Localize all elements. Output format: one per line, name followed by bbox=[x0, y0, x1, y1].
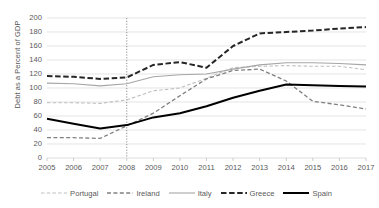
legend-item-ireland[interactable]: Ireland bbox=[107, 189, 159, 198]
series-line-greece bbox=[47, 27, 366, 79]
legend-item-spain[interactable]: Spain bbox=[283, 189, 331, 198]
x-axis-tick-2012: 2012 bbox=[219, 164, 247, 172]
y-axis-tick-20: 20 bbox=[20, 140, 42, 148]
line-swatch-dashed-light bbox=[41, 189, 67, 197]
x-axis-tick-2006: 2006 bbox=[60, 164, 88, 172]
chart-legend: PortugalIrelandItalyGreeceSpain bbox=[0, 186, 373, 200]
x-axis-tick-2008: 2008 bbox=[113, 164, 141, 172]
x-axis-tick-2013: 2013 bbox=[246, 164, 274, 172]
line-swatch-dashed-gray bbox=[107, 189, 133, 197]
x-axis-tick-2005: 2005 bbox=[33, 164, 61, 172]
y-axis-tick-80: 80 bbox=[20, 98, 42, 106]
y-axis-tick-120: 120 bbox=[20, 70, 42, 78]
y-axis-tick-100: 100 bbox=[20, 84, 42, 92]
legend-label-portugal: Portugal bbox=[70, 189, 98, 198]
y-axis-tick-180: 180 bbox=[20, 28, 42, 36]
y-axis-tick-0: 0 bbox=[20, 154, 42, 162]
legend-label-spain: Spain bbox=[312, 189, 331, 198]
legend-label-ireland: Ireland bbox=[136, 189, 159, 198]
line-swatch-solid-gray bbox=[169, 189, 195, 197]
y-axis-tick-60: 60 bbox=[20, 112, 42, 120]
x-axis-tick-2011: 2011 bbox=[193, 164, 221, 172]
legend-item-greece[interactable]: Greece bbox=[221, 189, 275, 198]
x-axis-tick-2015: 2015 bbox=[299, 164, 327, 172]
y-axis-tick-160: 160 bbox=[20, 42, 42, 50]
x-axis-tick-2014: 2014 bbox=[272, 164, 300, 172]
legend-item-portugal[interactable]: Portugal bbox=[41, 189, 98, 198]
x-axis-tick-2007: 2007 bbox=[86, 164, 114, 172]
series-line-spain bbox=[47, 85, 366, 129]
x-axis-tick-2016: 2016 bbox=[325, 164, 353, 172]
y-axis-tick-200: 200 bbox=[20, 14, 42, 22]
x-axis-tick-2009: 2009 bbox=[139, 164, 167, 172]
legend-item-italy[interactable]: Italy bbox=[169, 189, 212, 198]
x-axis-tick-2017: 2017 bbox=[352, 164, 379, 172]
legend-label-greece: Greece bbox=[250, 189, 275, 198]
line-swatch-solid-black bbox=[283, 189, 309, 197]
x-axis-tick-2010: 2010 bbox=[166, 164, 194, 172]
y-axis-tick-40: 40 bbox=[20, 126, 42, 134]
line-swatch-dashed-dark bbox=[221, 189, 247, 197]
y-axis-tick-140: 140 bbox=[20, 56, 42, 64]
legend-label-italy: Italy bbox=[198, 189, 212, 198]
